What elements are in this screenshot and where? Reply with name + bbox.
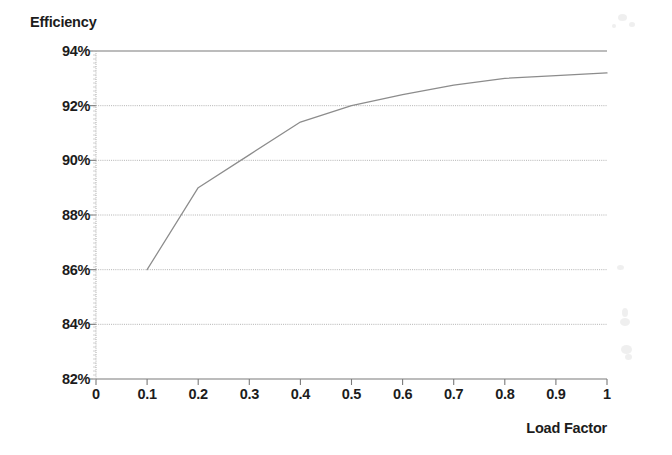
x-axis-title: Load Factor [455, 420, 607, 436]
efficiency-load-factor-chart: Efficiency 94%92%90%88%86%84%82% 00.10.2… [0, 0, 672, 455]
x-axis-tick-labels: 00.10.20.30.40.50.60.70.80.91 [0, 0, 672, 455]
scan-artifact [625, 354, 632, 360]
scan-artifact [622, 308, 628, 317]
scan-artifact [629, 22, 635, 27]
scan-artifact [612, 24, 616, 28]
scan-artifact [620, 318, 630, 326]
scan-artifact [618, 14, 627, 21]
scan-artifact [621, 345, 632, 354]
x-axis-tick-label: 1 [577, 386, 637, 402]
scan-artifact [617, 265, 624, 270]
